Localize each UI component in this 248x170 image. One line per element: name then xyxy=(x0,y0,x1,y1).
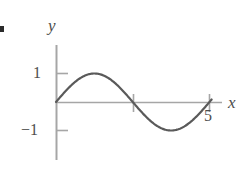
x-tick-label-five: 5 xyxy=(204,108,212,124)
y-tick-label-one: 1 xyxy=(33,65,41,81)
bullet-marker xyxy=(0,26,4,32)
y-tick-label-negative-one: −1 xyxy=(21,122,38,138)
figure-container: y x 1 −1 5 xyxy=(0,0,248,170)
sine-plot-svg xyxy=(0,0,248,170)
x-axis-label: x xyxy=(228,94,236,111)
y-axis-label: y xyxy=(48,17,56,34)
